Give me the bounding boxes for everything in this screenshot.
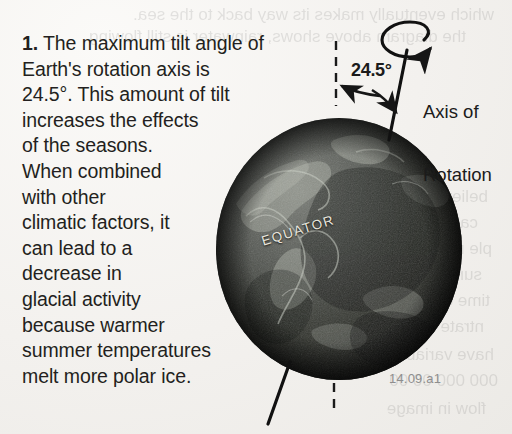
question-line-5: When combined [22, 159, 334, 185]
question-line-6: with other [22, 185, 334, 211]
rotation-spin-arrow [382, 22, 430, 57]
question-line-12: summer temperatures [22, 338, 334, 364]
question-line-text: The maximum tilt angle of [43, 32, 264, 54]
ghost-line: which eventually makes its way back to t… [133, 2, 494, 28]
figure-page: which eventually makes its way back to t… [0, 0, 512, 434]
question-line-8: can lead to a [22, 236, 334, 262]
tilt-angle-arc-left [342, 86, 380, 96]
figure-id-label: 14.09.a1 [389, 371, 441, 386]
question-text-block: 1. The maximum tilt angle of Earth's rot… [22, 31, 334, 389]
question-line-11: because warmer [22, 313, 334, 339]
question-line-3: increases the effects [22, 108, 334, 134]
question-line-1: Earth's rotation axis is [22, 57, 334, 83]
tilt-angle-label: 24.5° [351, 60, 392, 81]
question-line-13: melt more polar ice. [22, 364, 334, 390]
ghost-line: flow in image [387, 396, 486, 422]
axis-label-line-2: Rotation [423, 164, 492, 185]
axis-label-line-1: Axis of [423, 101, 492, 122]
question-line-10: glacial activity [22, 287, 334, 313]
tilt-angle-arc-right [372, 90, 396, 112]
question-number: 1. [22, 32, 38, 54]
axis-of-rotation-label: Axis of Rotation [423, 59, 492, 227]
question-line-0: 1. The maximum tilt angle of [22, 31, 334, 57]
question-line-2: 24.5°. This amount of tilt [22, 82, 334, 108]
question-line-4: of the seasons. [22, 133, 334, 159]
question-line-7: climatic factors, it [22, 210, 334, 236]
question-line-9: decrease in [22, 261, 334, 287]
